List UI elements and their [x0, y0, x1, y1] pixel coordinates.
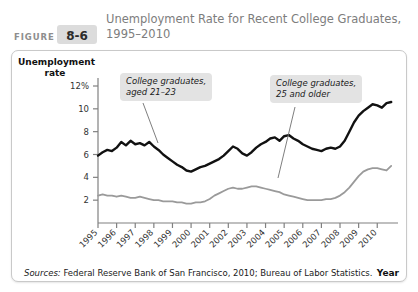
- svg-text:2: 2: [84, 195, 89, 205]
- svg-text:2010: 2010: [356, 227, 378, 249]
- svg-text:2003: 2003: [226, 227, 248, 249]
- svg-text:2008: 2008: [319, 227, 341, 249]
- figure-word-label: FIGURE: [14, 32, 55, 42]
- svg-text:2001: 2001: [189, 227, 211, 249]
- x-axis-title: Year: [377, 268, 399, 278]
- source-note: Sources: Federal Reserve Bank of San Fra…: [24, 268, 373, 278]
- svg-text:1997: 1997: [114, 227, 136, 249]
- svg-text:4: 4: [84, 172, 89, 182]
- annotation-graduates-21-23: College graduates, aged 21–23: [120, 73, 212, 101]
- svg-text:2005: 2005: [263, 227, 285, 249]
- chart-series: [98, 102, 391, 204]
- annotation-leader-lines: [143, 103, 295, 178]
- series-line-graduates-25-older: [98, 166, 391, 204]
- svg-text:2009: 2009: [338, 227, 360, 249]
- chart-panel: Unemploymentrate 24681012%19951996199719…: [11, 50, 407, 282]
- svg-text:6: 6: [84, 150, 89, 160]
- svg-text:2007: 2007: [300, 227, 322, 249]
- svg-text:1996: 1996: [96, 227, 118, 249]
- svg-text:1999: 1999: [152, 227, 174, 249]
- figure-container: FIGURE 8-6 Unemployment Rate for Recent …: [0, 0, 418, 292]
- svg-text:2006: 2006: [282, 227, 304, 249]
- chart-area: Unemploymentrate 24681012%19951996199719…: [12, 51, 408, 283]
- figure-number-label: 8-6: [57, 29, 97, 43]
- svg-text:8: 8: [84, 127, 89, 137]
- page-title: Unemployment Rate for Recent College Gra…: [106, 12, 406, 41]
- chart-axes: 24681012%1995199619971998199920002001200…: [70, 78, 398, 250]
- series-line-graduates-21-23: [98, 102, 391, 172]
- svg-text:12%: 12%: [70, 81, 89, 91]
- svg-text:2002: 2002: [207, 227, 229, 249]
- figure-header: FIGURE 8-6 Unemployment Rate for Recent …: [0, 8, 418, 52]
- svg-text:1995: 1995: [77, 227, 99, 249]
- source-label: Sources:: [24, 268, 61, 278]
- annotation-graduates-25-older: College graduates, 25 and older: [270, 75, 362, 103]
- svg-text:2004: 2004: [245, 227, 267, 249]
- svg-text:2000: 2000: [170, 227, 192, 249]
- source-text: Federal Reserve Bank of San Francisco, 2…: [61, 268, 373, 278]
- svg-text:1998: 1998: [133, 227, 155, 249]
- svg-text:10: 10: [78, 104, 89, 114]
